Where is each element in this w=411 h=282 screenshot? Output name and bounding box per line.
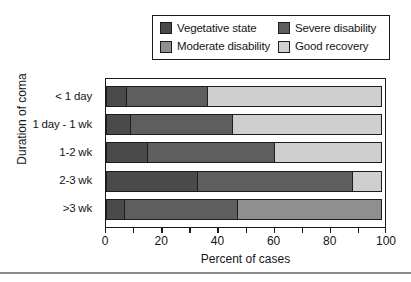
x-tick-30 — [189, 228, 190, 233]
legend-label-good-recovery: Good recovery — [295, 41, 368, 53]
plot-area — [105, 78, 386, 228]
x-tick-90 — [358, 228, 359, 233]
x-tick-60 — [274, 228, 275, 233]
bar-segment-vegetative-state — [106, 86, 127, 107]
bar-segment-vegetative-state — [106, 171, 198, 192]
bar-row-2-3-wk — [106, 171, 385, 192]
bar-segment-vegetative-state — [106, 142, 148, 163]
bar-row-1-day — [106, 86, 385, 107]
y-axis-tick-labels: < 1 day1 day - 1 wk1-2 wk2-3 wk>3 wk — [0, 78, 100, 228]
bar-segment-severe-disability — [147, 142, 275, 163]
bar-row-3-wk — [106, 199, 385, 220]
bar-series-container — [106, 79, 385, 227]
x-tick-label-100: 100 — [376, 234, 396, 248]
legend-item-moderate-disability: Moderate disability — [160, 41, 278, 53]
page-divider-rule — [0, 272, 411, 274]
bar-segment-good-recovery — [352, 171, 383, 192]
legend-item-vegetative-state: Vegetative state — [160, 22, 278, 34]
legend-label-severe-disability: Severe disability — [295, 23, 376, 35]
y-tick-label-2-3-wk: 2-3 wk — [59, 174, 92, 186]
legend-swatch-severe-disability — [278, 22, 290, 34]
y-tick-label-1-day-1-wk: 1 day - 1 wk — [32, 118, 92, 130]
bar-segment-good-recovery — [274, 142, 383, 163]
chart-legend: Vegetative state Severe disability Moder… — [152, 15, 390, 60]
x-axis-title: Percent of cases — [105, 252, 386, 266]
x-tick-70 — [302, 228, 303, 233]
y-tick-label-1-day: < 1 day — [55, 90, 92, 102]
x-tick-label-40: 40 — [211, 234, 224, 248]
y-tick-label-1-2-wk: 1-2 wk — [59, 146, 92, 158]
bar-segment-good-recovery — [207, 86, 383, 107]
x-tick-100 — [385, 228, 386, 233]
bar-segment-moderate-disability — [237, 199, 382, 220]
bar-segment-severe-disability — [124, 199, 238, 220]
bar-segment-vegetative-state — [106, 199, 126, 220]
legend-label-moderate-disability: Moderate disability — [177, 41, 270, 53]
x-axis-tick-labels: 020406080100 — [105, 234, 386, 250]
x-tick-50 — [246, 228, 247, 233]
bar-segment-severe-disability — [130, 114, 233, 135]
figure-stacked-bar-chart: Vegetative state Severe disability Moder… — [0, 0, 411, 282]
bar-row-1-day-1-wk — [106, 114, 385, 135]
legend-swatch-moderate-disability — [160, 41, 172, 53]
legend-swatch-good-recovery — [278, 41, 290, 53]
x-tick-80 — [330, 228, 331, 233]
x-tick-label-80: 80 — [323, 234, 336, 248]
legend-item-good-recovery: Good recovery — [278, 41, 398, 53]
x-tick-label-0: 0 — [102, 234, 109, 248]
bar-segment-vegetative-state — [106, 114, 131, 135]
bar-segment-severe-disability — [197, 171, 353, 192]
x-tick-20 — [161, 228, 162, 233]
legend-label-vegetative-state: Vegetative state — [177, 23, 256, 35]
y-tick-label-3-wk: >3 wk — [63, 202, 92, 214]
x-tick-label-60: 60 — [267, 234, 280, 248]
bar-segment-good-recovery — [232, 114, 383, 135]
bar-row-1-2-wk — [106, 142, 385, 163]
x-tick-40 — [217, 228, 218, 233]
legend-item-severe-disability: Severe disability — [278, 22, 398, 34]
x-tick-10 — [133, 228, 134, 233]
x-tick-0 — [105, 228, 106, 233]
bar-segment-severe-disability — [126, 86, 208, 107]
legend-swatch-vegetative-state — [160, 22, 172, 34]
x-tick-label-20: 20 — [155, 234, 168, 248]
